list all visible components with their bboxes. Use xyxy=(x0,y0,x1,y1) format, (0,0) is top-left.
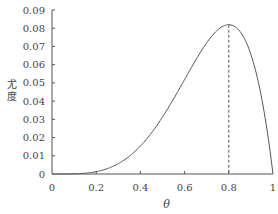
y-tick-label: 0.02 xyxy=(23,132,45,143)
y-ticks: 00.010.020.030.040.050.060.070.080.09 xyxy=(23,5,55,180)
y-tick-label: 0.05 xyxy=(23,77,45,88)
y-tick-label: 0.07 xyxy=(23,41,45,52)
y-tick-label: 0.01 xyxy=(23,150,45,161)
y-tick-label: 0.06 xyxy=(23,59,45,70)
y-axis-label: 尤度 xyxy=(7,78,17,102)
y-tick-label: 0 xyxy=(39,169,45,180)
y-tick-label: 0.04 xyxy=(23,96,45,107)
x-tick-label: 0.6 xyxy=(177,182,193,193)
x-tick-label: 0.8 xyxy=(221,182,237,193)
likelihood-curve xyxy=(52,25,273,174)
likelihood-chart: 00.010.020.030.040.050.060.070.080.09 00… xyxy=(0,0,278,214)
y-tick-label: 0.09 xyxy=(23,5,45,16)
y-axis-label-char: 尤 xyxy=(7,78,17,90)
x-tick-label: 1 xyxy=(270,182,276,193)
x-tick-label: 0.4 xyxy=(132,182,148,193)
y-axis-label-char: 度 xyxy=(7,90,17,102)
x-tick-label: 0 xyxy=(49,182,55,193)
y-tick-label: 0.03 xyxy=(23,114,45,125)
y-tick-label: 0.08 xyxy=(23,23,45,34)
x-axis-label: θ xyxy=(163,198,170,211)
axes xyxy=(52,10,273,174)
x-tick-label: 0.2 xyxy=(88,182,104,193)
